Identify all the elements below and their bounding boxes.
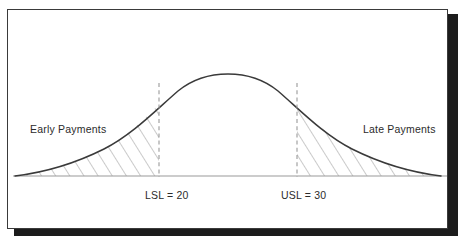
normal-distribution-plot [8,10,447,228]
early-payments-label: Early Payments [30,123,106,135]
late-payments-label: Late Payments [363,123,436,135]
figure-root: Early Payments Late Payments LSL = 20 US… [0,0,463,244]
figure-frame: Early Payments Late Payments LSL = 20 US… [7,9,448,229]
lsl-label: LSL = 20 [145,189,189,201]
usl-label: USL = 30 [281,189,326,201]
